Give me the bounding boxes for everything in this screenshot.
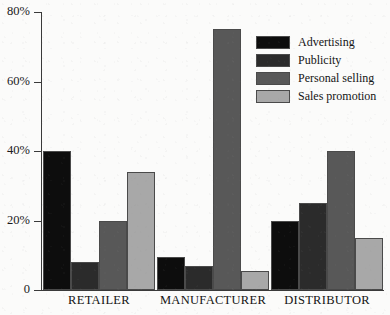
legend-item: Publicity bbox=[256, 51, 376, 69]
legend-item-label: Advertising bbox=[298, 35, 355, 50]
bar-group bbox=[43, 12, 155, 290]
bar bbox=[43, 151, 71, 290]
bar bbox=[127, 172, 155, 290]
y-axis-tick-label: 60% bbox=[0, 74, 30, 89]
legend-swatch-icon bbox=[256, 36, 290, 49]
bar-chart: 020%40%60%80% RETAILERMANUFACTURERDISTRI… bbox=[0, 0, 390, 315]
chart-legend: AdvertisingPublicityPersonal sellingSale… bbox=[256, 33, 376, 105]
y-axis-tick-mark bbox=[34, 290, 41, 291]
y-axis-tick-mark bbox=[34, 12, 41, 13]
bar-group bbox=[157, 12, 269, 290]
y-axis-tick-mark bbox=[34, 221, 41, 222]
bar bbox=[185, 266, 213, 290]
bar bbox=[241, 271, 269, 290]
legend-item: Personal selling bbox=[256, 69, 376, 87]
legend-swatch-icon bbox=[256, 90, 290, 103]
bar bbox=[157, 257, 185, 290]
bar bbox=[271, 221, 299, 291]
bar bbox=[99, 221, 127, 291]
y-axis-tick-mark bbox=[34, 151, 41, 152]
bar bbox=[213, 29, 241, 290]
y-axis-tick-label: 80% bbox=[0, 4, 30, 19]
legend-item-label: Personal selling bbox=[298, 71, 374, 86]
bar bbox=[355, 238, 383, 290]
bar bbox=[71, 262, 99, 290]
legend-item: Sales promotion bbox=[256, 87, 376, 105]
bar bbox=[299, 203, 327, 290]
legend-swatch-icon bbox=[256, 72, 290, 85]
y-axis-tick-label: 20% bbox=[0, 213, 30, 228]
legend-item-label: Publicity bbox=[298, 53, 341, 68]
legend-item-label: Sales promotion bbox=[298, 89, 376, 104]
x-axis-line bbox=[41, 290, 384, 291]
legend-swatch-icon bbox=[256, 54, 290, 67]
bar bbox=[327, 151, 355, 290]
y-axis-tick-mark bbox=[34, 82, 41, 83]
legend-item: Advertising bbox=[256, 33, 376, 51]
x-axis-category-label: DISTRIBUTOR bbox=[241, 293, 390, 308]
y-axis-tick-label: 40% bbox=[0, 143, 30, 158]
